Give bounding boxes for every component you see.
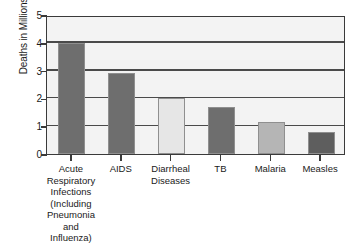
x-tick-mark xyxy=(170,155,172,161)
x-tick-mark xyxy=(220,155,222,161)
plot-area xyxy=(46,16,345,155)
x-tick-label: Acute Respiratory Infections (Including … xyxy=(38,163,104,244)
y-tick-label: 2 xyxy=(22,94,42,104)
x-tick-mark xyxy=(270,155,272,161)
x-tick-mark xyxy=(319,155,321,161)
y-tick-label: 4 xyxy=(22,39,42,49)
y-tick-label: 0 xyxy=(22,150,42,160)
bar xyxy=(208,107,235,154)
y-tick-label: 5 xyxy=(22,11,42,21)
bar xyxy=(108,73,135,154)
bar xyxy=(258,122,285,154)
bar xyxy=(308,132,335,154)
bars-group xyxy=(47,17,344,154)
y-tick-label: 3 xyxy=(22,67,42,77)
y-tick-label: 1 xyxy=(22,122,42,132)
bar xyxy=(58,43,85,154)
bar xyxy=(158,98,185,154)
x-tick-label: Measles xyxy=(287,163,353,175)
x-tick-mark xyxy=(120,155,122,161)
x-tick-mark xyxy=(70,155,72,161)
